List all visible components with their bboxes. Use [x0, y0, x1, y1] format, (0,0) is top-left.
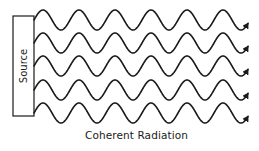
source-label: Source: [18, 49, 29, 83]
wave-5: [34, 103, 248, 123]
wave-3: [34, 56, 248, 76]
wave-1: [34, 10, 248, 30]
diagram-caption: Coherent Radiation: [0, 129, 259, 141]
wave-4: [34, 80, 248, 100]
wave-group: [34, 10, 248, 123]
wave-2: [34, 33, 248, 53]
